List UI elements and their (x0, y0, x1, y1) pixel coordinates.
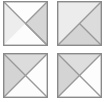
tile-grid (0, 0, 107, 102)
tile-bottom-right (57, 53, 102, 98)
tile-shape-bottom-right (57, 53, 102, 98)
tile-top-left (3, 1, 48, 46)
tile-shape-bottom-left (3, 53, 48, 98)
tile-shape-top-left (3, 1, 48, 46)
tile-bottom-left (3, 53, 48, 98)
tile-top-right (57, 1, 102, 46)
tile-shape-top-right (57, 1, 102, 46)
